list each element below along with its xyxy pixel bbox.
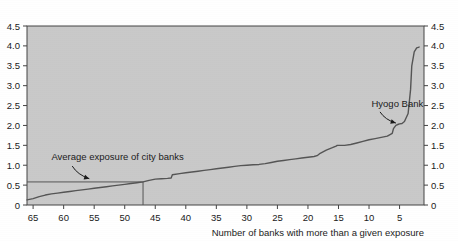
x-axis-tick-label: 5	[397, 212, 402, 223]
y-axis-label-left: 2.5	[7, 100, 20, 111]
y-axis-label-right: 0	[431, 200, 436, 211]
y-axis-label-left: 0	[15, 200, 20, 211]
y-axis-label-left: 2.0	[7, 120, 20, 131]
y-axis-label-left: 1.0	[7, 160, 20, 171]
y-axis-label-right: 4.0	[431, 40, 444, 51]
x-axis-tick-label: 55	[89, 212, 100, 223]
x-axis-tick-label: 10	[364, 212, 375, 223]
x-axis-tick-label: 35	[211, 212, 222, 223]
chart-figure: 000.50.51.01.01.51.52.02.02.52.53.03.03.…	[0, 0, 458, 241]
hyogo-bank-annotation-text: Hyogo Bank	[371, 98, 423, 109]
x-axis-tick-label: 25	[272, 212, 283, 223]
y-axis-label-left: 3.0	[7, 80, 20, 91]
x-axis-tick-label: 20	[303, 212, 314, 223]
y-axis-label-right: 2.0	[431, 120, 444, 131]
y-axis-label-left: 3.5	[7, 60, 20, 71]
y-axis-label-right: 4.5	[431, 21, 444, 32]
y-axis-label-right: 0.5	[431, 180, 444, 191]
y-axis-label-left: 4.5	[7, 21, 20, 32]
y-axis-label-left: 1.5	[7, 140, 20, 151]
y-axis-label-right: 1.0	[431, 160, 444, 171]
x-axis-tick-label: 40	[181, 212, 192, 223]
y-axis-label-right: 3.0	[431, 80, 444, 91]
y-axis-label-right: 2.5	[431, 100, 444, 111]
exposure-line-chart: 000.50.51.01.01.51.52.02.02.52.53.03.03.…	[0, 0, 458, 241]
y-axis-label-left: 0.5	[7, 180, 20, 191]
average-exposure-annotation-text: Average exposure of city banks	[51, 151, 184, 162]
y-axis-label-right: 3.5	[431, 60, 444, 71]
x-axis-tick-label: 65	[28, 212, 39, 223]
x-axis-tick-label: 30	[242, 212, 253, 223]
x-axis-title: Number of banks with more than a given e…	[212, 227, 424, 238]
x-axis-tick-label: 50	[119, 212, 130, 223]
x-axis-tick-label: 45	[150, 212, 161, 223]
y-axis-label-right: 1.5	[431, 140, 444, 151]
x-axis-tick-label: 60	[58, 212, 69, 223]
y-axis-label-left: 4.0	[7, 40, 20, 51]
x-axis-tick-label: 15	[333, 212, 344, 223]
